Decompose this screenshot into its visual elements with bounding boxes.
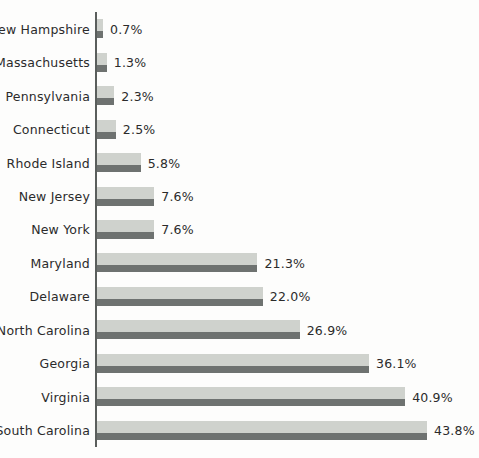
- bar-segment-dark: [97, 31, 103, 38]
- bar-segment-light: [97, 320, 300, 332]
- bar-segment-light: [97, 421, 427, 433]
- value-label: 26.9%: [307, 322, 348, 337]
- value-label: 1.3%: [114, 55, 147, 70]
- bar-segment-dark: [97, 232, 154, 239]
- bar-chart: New Hampshire0.7%Massachusetts1.3%Pennsy…: [0, 0, 479, 458]
- bar-segment-light: [97, 287, 263, 299]
- category-label: Virginia: [0, 389, 90, 404]
- category-label: New York: [0, 222, 90, 237]
- bar-segment-dark: [97, 165, 141, 172]
- value-label: 7.6%: [161, 222, 194, 237]
- bar-series: New Hampshire0.7%Massachusetts1.3%Pennsy…: [0, 0, 479, 458]
- bar-row: New York7.6%: [0, 213, 479, 246]
- bar-row: Delaware22.0%: [0, 280, 479, 313]
- value-label: 2.5%: [123, 122, 156, 137]
- bar-row: Maryland21.3%: [0, 246, 479, 279]
- bar-segment-dark: [97, 98, 114, 105]
- bar-row: Georgia36.1%: [0, 347, 479, 380]
- plot-area: New Hampshire0.7%Massachusetts1.3%Pennsy…: [0, 0, 479, 458]
- value-label: 22.0%: [270, 289, 311, 304]
- bar: [97, 421, 427, 440]
- bar: [97, 220, 154, 239]
- bar-segment-light: [97, 220, 154, 232]
- bar-segment-light: [97, 354, 369, 366]
- category-label: Rhode Island: [0, 155, 90, 170]
- bar-segment-dark: [97, 332, 300, 339]
- bar-segment-light: [97, 387, 405, 399]
- bar-row: Connecticut2.5%: [0, 112, 479, 145]
- category-label: New Jersey: [0, 189, 90, 204]
- bar-row: New Jersey7.6%: [0, 179, 479, 212]
- bar-row: Virginia40.9%: [0, 380, 479, 413]
- bar: [97, 320, 300, 339]
- category-label: New Hampshire: [0, 21, 90, 36]
- bar-segment-dark: [97, 299, 263, 306]
- bar-row: South Carolina43.8%: [0, 414, 479, 447]
- value-label: 5.8%: [148, 155, 181, 170]
- value-label: 40.9%: [412, 389, 453, 404]
- category-label: Delaware: [0, 289, 90, 304]
- bar-segment-light: [97, 253, 257, 265]
- bar-segment-light: [97, 120, 116, 132]
- category-label: Massachusetts: [0, 55, 90, 70]
- bar-segment-light: [97, 153, 141, 165]
- bar: [97, 187, 154, 206]
- value-label: 21.3%: [264, 255, 305, 270]
- bar: [97, 387, 405, 406]
- bar: [97, 120, 116, 139]
- value-label: 2.3%: [121, 88, 154, 103]
- bar-segment-dark: [97, 65, 107, 72]
- bar-segment-light: [97, 187, 154, 199]
- value-label: 0.7%: [110, 21, 143, 36]
- bar-segment-light: [97, 19, 103, 31]
- bar: [97, 86, 114, 105]
- bar-row: Rhode Island5.8%: [0, 146, 479, 179]
- category-label: Maryland: [0, 255, 90, 270]
- category-label: North Carolina: [0, 322, 90, 337]
- value-label: 7.6%: [161, 189, 194, 204]
- bar-segment-dark: [97, 265, 257, 272]
- bar-segment-dark: [97, 366, 369, 373]
- bar: [97, 19, 103, 38]
- bar-segment-light: [97, 53, 107, 65]
- bar-segment-dark: [97, 199, 154, 206]
- bar-segment-dark: [97, 433, 427, 440]
- bar: [97, 354, 369, 373]
- value-label: 43.8%: [434, 423, 475, 438]
- bar: [97, 53, 107, 72]
- bar-row: Massachusetts1.3%: [0, 45, 479, 78]
- bar-row: North Carolina26.9%: [0, 313, 479, 346]
- bar-segment-dark: [97, 132, 116, 139]
- bar: [97, 153, 141, 172]
- category-label: Connecticut: [0, 122, 90, 137]
- category-label: Pennsylvania: [0, 88, 90, 103]
- bar-row: New Hampshire0.7%: [0, 12, 479, 45]
- bar: [97, 253, 257, 272]
- category-label: South Carolina: [0, 423, 90, 438]
- category-label: Georgia: [0, 356, 90, 371]
- bar: [97, 287, 263, 306]
- bar-segment-dark: [97, 399, 405, 406]
- bar-row: Pennsylvania2.3%: [0, 79, 479, 112]
- bar-segment-light: [97, 86, 114, 98]
- value-label: 36.1%: [376, 356, 417, 371]
